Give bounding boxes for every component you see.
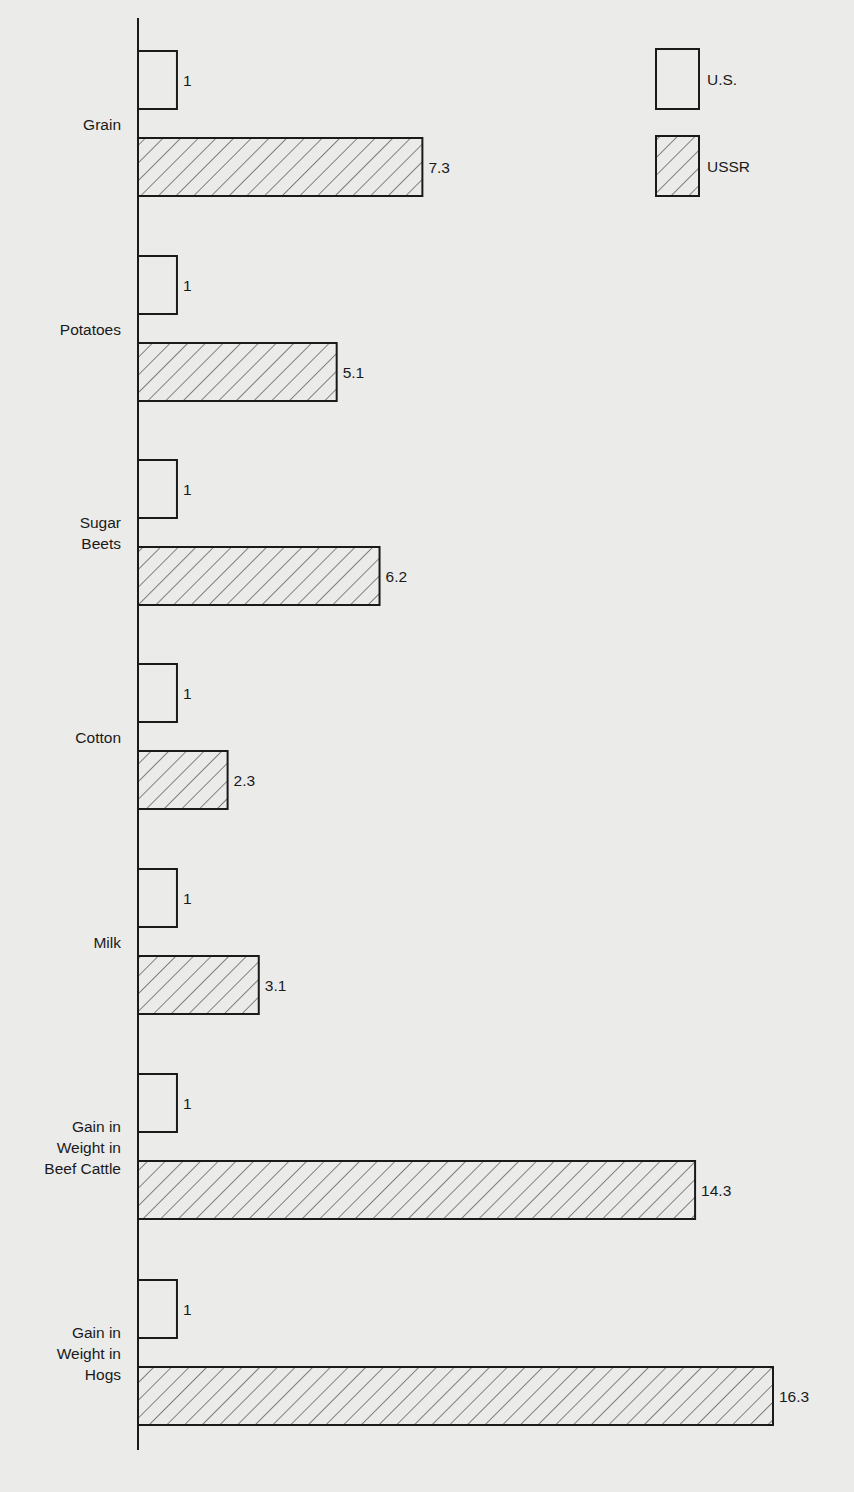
bar-us	[138, 869, 177, 927]
bar-ussr	[138, 138, 422, 196]
value-label: 1	[183, 685, 192, 702]
category-label: Weight in	[57, 1345, 121, 1362]
legend-swatch-us	[656, 49, 699, 109]
category-label: Beef Cattle	[44, 1160, 121, 1177]
bar-us	[138, 664, 177, 722]
category-group: 114.3Gain inWeight inBeef Cattle	[44, 1074, 731, 1219]
category-label: Potatoes	[60, 321, 121, 338]
value-label: 7.3	[428, 159, 450, 176]
bar-chart: 17.3Grain15.1Potatoes16.2SugarBeets12.3C…	[0, 0, 854, 1492]
category-group: 13.1Milk	[93, 869, 286, 1014]
value-label: 5.1	[343, 364, 365, 381]
bar-ussr	[138, 751, 228, 809]
value-label: 1	[183, 1095, 192, 1112]
bar-ussr	[138, 343, 337, 401]
value-label: 14.3	[701, 1182, 731, 1199]
category-label: Cotton	[75, 729, 121, 746]
value-label: 1	[183, 277, 192, 294]
legend-label: USSR	[707, 158, 750, 175]
category-label: Gain in	[72, 1118, 121, 1135]
bar-us	[138, 256, 177, 314]
category-group: 116.3Gain inWeight inHogs	[57, 1280, 810, 1425]
value-label: 1	[183, 481, 192, 498]
category-label: Beets	[81, 535, 121, 552]
legend-swatch-ussr	[656, 136, 699, 196]
value-label: 1	[183, 72, 192, 89]
value-label: 1	[183, 890, 192, 907]
category-label: Gain in	[72, 1324, 121, 1341]
category-label: Weight in	[57, 1139, 121, 1156]
bar-ussr	[138, 956, 259, 1014]
bar-ussr	[138, 1367, 773, 1425]
category-group: 15.1Potatoes	[60, 256, 364, 401]
bar-us	[138, 51, 177, 109]
value-label: 16.3	[779, 1388, 809, 1405]
legend: U.S.USSR	[656, 49, 750, 196]
category-label: Grain	[83, 116, 121, 133]
bar-ussr	[138, 547, 380, 605]
category-group: 16.2SugarBeets	[80, 460, 407, 605]
bars-group: 17.3Grain15.1Potatoes16.2SugarBeets12.3C…	[44, 51, 809, 1425]
value-label: 3.1	[265, 977, 287, 994]
category-label: Hogs	[85, 1366, 121, 1383]
bar-us	[138, 460, 177, 518]
value-label: 6.2	[386, 568, 408, 585]
category-label: Milk	[93, 934, 121, 951]
category-group: 12.3Cotton	[75, 664, 255, 809]
bar-us	[138, 1280, 177, 1338]
category-label: Sugar	[80, 514, 121, 531]
bar-us	[138, 1074, 177, 1132]
legend-label: U.S.	[707, 71, 737, 88]
bar-ussr	[138, 1161, 695, 1219]
value-label: 1	[183, 1301, 192, 1318]
value-label: 2.3	[234, 772, 256, 789]
